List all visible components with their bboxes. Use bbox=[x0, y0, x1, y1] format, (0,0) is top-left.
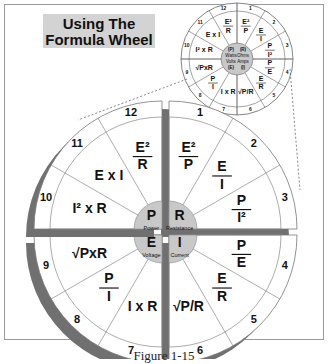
segment-number: 3 bbox=[282, 191, 288, 203]
small-segment-number: 7 bbox=[222, 106, 225, 112]
fraction-numerator: E bbox=[217, 270, 226, 286]
fraction-numerator: E² bbox=[242, 18, 250, 25]
small-segment-number: 5 bbox=[272, 92, 275, 98]
segment-number: 10 bbox=[40, 191, 52, 203]
segment-formula: √PxR bbox=[72, 245, 107, 261]
segment-number: 12 bbox=[125, 106, 137, 118]
hub-letter-power: P bbox=[147, 207, 156, 223]
hub-label-power: Power bbox=[144, 225, 160, 231]
hub-label-e: (E) bbox=[228, 65, 235, 70]
small-segment-number: 6 bbox=[249, 106, 252, 112]
fraction-numerator: P bbox=[268, 59, 273, 66]
segment-formula: √P/R bbox=[173, 298, 204, 314]
segment-formula: E x I bbox=[95, 167, 124, 183]
hub-label-resistance: Resistance bbox=[166, 225, 193, 231]
fraction-denominator: R bbox=[226, 27, 231, 34]
hub-letter-current: I bbox=[178, 234, 182, 250]
segment-number: 8 bbox=[74, 313, 80, 325]
fraction-denominator: I² bbox=[268, 51, 273, 58]
hub-label-amps: Amps bbox=[237, 59, 249, 64]
fraction-denominator: E bbox=[268, 68, 273, 75]
hub-label-volts: Volts bbox=[226, 59, 237, 64]
fraction-denominator: I² bbox=[237, 209, 246, 225]
fraction-numerator: P bbox=[104, 270, 113, 286]
segment-number: 5 bbox=[251, 313, 257, 325]
small-segment-number: 1 bbox=[249, 5, 252, 11]
fraction-denominator: R bbox=[259, 83, 264, 90]
quadrant-voltage: EVoltage7I x R8PI9√PxR bbox=[26, 234, 162, 359]
quadrant-power: PPower10I² x R11E x I12E²R bbox=[26, 101, 162, 237]
hub-label-r: (R) bbox=[240, 47, 247, 52]
segment-formula: I² x R bbox=[72, 200, 106, 216]
hub-label-i: (I) bbox=[241, 65, 246, 70]
hub-label-voltage: Voltage bbox=[142, 252, 160, 258]
fraction-numerator: E bbox=[259, 75, 264, 82]
hub-label-watts: Watts bbox=[225, 53, 237, 58]
fraction-numerator: E² bbox=[225, 18, 233, 25]
segment-number: 9 bbox=[43, 259, 49, 271]
small-segment-number: 9 bbox=[185, 69, 188, 75]
fraction-numerator: P bbox=[237, 237, 246, 253]
hub-letter-resistance: R bbox=[175, 207, 185, 223]
small-segment-formula: E x I bbox=[206, 31, 220, 38]
fraction-denominator: I bbox=[212, 83, 214, 90]
fraction-numerator: E² bbox=[136, 139, 150, 155]
fraction-denominator: I bbox=[107, 288, 111, 304]
hub-label-current: Current bbox=[170, 252, 189, 258]
small-segment-number: 8 bbox=[199, 92, 202, 98]
fraction-numerator: P bbox=[268, 42, 273, 49]
small-segment-formula: I² x R bbox=[196, 46, 213, 53]
small-segment-number: 10 bbox=[184, 42, 190, 48]
hub-label-ohms: Ohms bbox=[237, 53, 250, 58]
segment-number: 11 bbox=[71, 137, 83, 149]
fraction-denominator: P bbox=[243, 27, 248, 34]
leader-line-right bbox=[290, 69, 300, 190]
segment-number: 1 bbox=[197, 106, 203, 118]
hub-label-p: (P) bbox=[228, 47, 235, 52]
small-segment-number: 12 bbox=[221, 5, 227, 11]
small-segment-formula: I x R bbox=[221, 88, 236, 95]
segment-formula: I x R bbox=[128, 298, 158, 314]
small-segment-number: 4 bbox=[286, 69, 289, 75]
segment-number: 4 bbox=[282, 259, 289, 271]
fraction-numerator: E² bbox=[181, 139, 195, 155]
fraction-denominator: R bbox=[217, 288, 227, 304]
fraction-numerator: P bbox=[237, 192, 246, 208]
exploded-formula-wheel: RResistance1E²P2EI3PI²ICurrent4PE5ER6√P/… bbox=[26, 101, 297, 359]
segment-number: 2 bbox=[251, 137, 257, 149]
fraction-denominator: R bbox=[138, 156, 148, 172]
small-segment-number: 11 bbox=[198, 19, 204, 25]
fraction-numerator: E bbox=[259, 27, 264, 34]
quadrant-current: ICurrent4PE5ER6√P/R bbox=[161, 234, 297, 359]
small-segment-formula: √P/R bbox=[238, 88, 254, 95]
small-segment-number: 3 bbox=[286, 42, 289, 48]
fraction-denominator: P bbox=[184, 156, 193, 172]
fraction-numerator: P bbox=[211, 75, 216, 82]
fraction-denominator: I bbox=[260, 35, 262, 42]
fraction-denominator: E bbox=[237, 254, 246, 270]
fraction-denominator: I bbox=[220, 176, 224, 192]
small-segment-number: 2 bbox=[272, 19, 275, 25]
quadrant-resistance: RResistance1E²P2EI3PI² bbox=[161, 101, 297, 237]
fraction-numerator: E bbox=[217, 158, 226, 174]
figure-caption: Figure 1-15 bbox=[0, 348, 328, 364]
small-segment-formula: √PxR bbox=[195, 64, 212, 71]
